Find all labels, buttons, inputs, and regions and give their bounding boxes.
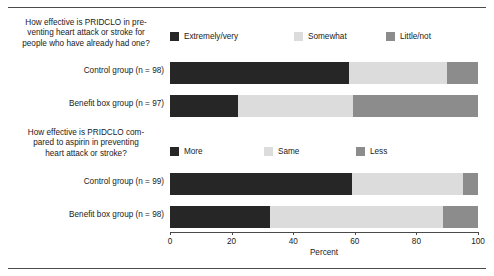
x-tick-20 [232,232,233,235]
x-tick-40 [293,232,294,235]
legend-item-less: Less [356,144,387,158]
x-tick-60 [355,232,356,235]
legend-label-somewhat: Somewhat [308,32,347,41]
legend-swatch-light-icon [294,32,303,41]
bar-segment-more [170,173,352,195]
row-label-benefit-97: Benefit box group (n = 97) [6,99,164,109]
x-tick-100 [478,232,479,235]
x-tick-0 [170,232,171,235]
legend-item-more: More [170,144,264,158]
row-label-benefit-98: Benefit box group (n = 98) [6,210,164,220]
x-tick-label-80: 80 [412,237,421,246]
legend-swatch-light-icon [264,147,273,156]
x-tick-label-20: 20 [227,237,236,246]
row-label-control-98: Control group (n = 98) [6,66,164,76]
bar-control-98 [170,62,478,84]
panel2-legend: More Same Less [170,144,478,158]
panel2-question-line1: How effective is PRIDCLO com- [6,128,166,138]
panel2-question: How effective is PRIDCLO com- pared to a… [6,128,166,159]
legend-swatch-dark-icon [170,147,179,156]
bar-control-99 [170,173,478,195]
panel2-question-line3: heart attack or stroke? [6,149,166,159]
stacked-bar-figure: How effective is PRIDCLO in pre- venting… [0,0,494,276]
legend-item-little-not: Little/not [386,29,431,43]
legend-item-same: Same [264,144,356,158]
bar-segment-somewhat [238,95,354,117]
panel1-question-line3: people who have already had one? [6,39,166,49]
bar-segment-same [270,206,442,228]
table-row: Control group (n = 98) [0,60,494,86]
table-row: Benefit box group (n = 97) [0,93,494,119]
x-tick-80 [416,232,417,235]
bar-segment-little-not [353,95,478,117]
panel2-question-line2: pared to aspirin in preventing [6,138,166,148]
table-row: Control group (n = 99) [0,171,494,197]
legend-swatch-dark-icon [170,32,179,41]
top-rule [8,7,486,8]
bar-benefit-97 [170,95,478,117]
bar-segment-somewhat [349,62,448,84]
x-tick-label-40: 40 [289,237,298,246]
table-row: Benefit box group (n = 98) [0,204,494,230]
panel1-question-line1: How effective is PRIDCLO in pre- [6,18,166,28]
x-axis: 0 20 40 60 80 100 [170,232,478,233]
bar-segment-less [443,206,478,228]
x-tick-label-100: 100 [471,237,485,246]
legend-item-somewhat: Somewhat [294,29,386,43]
x-tick-label-60: 60 [350,237,359,246]
legend-item-extremely-very: Extremely/very [170,29,294,43]
legend-swatch-mid-icon [356,147,365,156]
panel1-question-line2: venting heart attack or stroke for [6,28,166,38]
bar-segment-extremely-very [170,95,238,117]
bar-segment-less [463,173,478,195]
bar-segment-extremely-very [170,62,349,84]
panel1-legend: Extremely/very Somewhat Little/not [170,29,478,43]
bar-segment-same [352,173,463,195]
panel1-question: How effective is PRIDCLO in pre- venting… [6,18,166,49]
legend-label-extremely-very: Extremely/very [184,32,238,41]
legend-label-little-not: Little/not [400,32,431,41]
x-axis-title: Percent [170,248,478,257]
legend-label-more: More [184,147,203,156]
x-tick-label-0: 0 [168,237,173,246]
bottom-rule [8,268,486,269]
bar-benefit-98 [170,206,478,228]
legend-swatch-mid-icon [386,32,395,41]
row-label-control-99: Control group (n = 99) [6,177,164,187]
legend-label-same: Same [278,147,299,156]
bar-segment-more [170,206,270,228]
legend-label-less: Less [370,147,387,156]
bar-segment-little-not [447,62,478,84]
